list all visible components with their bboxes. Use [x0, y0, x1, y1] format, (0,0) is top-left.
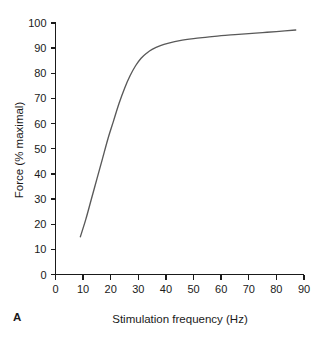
y-axis-tick-label: 90 — [34, 42, 46, 54]
y-axis-tick-label: 0 — [40, 269, 46, 281]
x-axis-ticks: 0102030405060708090 — [52, 275, 310, 295]
y-axis-tick-label: 80 — [34, 67, 46, 79]
y-axis-tick-label: 20 — [34, 218, 46, 230]
x-axis-tick-label: 60 — [215, 283, 227, 295]
data-curve-force-frequency — [80, 30, 295, 237]
y-axis-tick-label: 70 — [34, 92, 46, 104]
y-axis-tick-label: 50 — [34, 143, 46, 155]
force-frequency-chart: 0102030405060708090100 01020304050607080… — [0, 0, 327, 339]
x-axis-tick-label: 0 — [52, 283, 58, 295]
x-axis-tick-label: 70 — [243, 283, 255, 295]
x-axis-tick-label: 80 — [270, 283, 282, 295]
y-axis-ticks: 0102030405060708090100 — [28, 17, 55, 281]
figure-panel-a: 0102030405060708090100 01020304050607080… — [0, 0, 327, 339]
y-axis-tick-label: 100 — [28, 17, 46, 29]
y-axis-tick-label: 40 — [34, 168, 46, 180]
y-axis-tick-label: 10 — [34, 243, 46, 255]
panel-label: A — [13, 311, 22, 323]
x-axis-tick-label: 20 — [105, 283, 117, 295]
chart-axes — [56, 23, 305, 275]
x-axis-tick-label: 30 — [132, 283, 144, 295]
x-axis-tick-label: 40 — [160, 283, 172, 295]
x-axis-title: Stimulation frequency (Hz) — [112, 313, 248, 325]
x-axis-tick-label: 50 — [187, 283, 199, 295]
x-axis-tick-label: 10 — [77, 283, 89, 295]
y-axis-tick-label: 60 — [34, 118, 46, 130]
x-axis-tick-label: 90 — [298, 283, 310, 295]
y-axis-title: Force (% maximal) — [13, 102, 25, 199]
y-axis-tick-label: 30 — [34, 193, 46, 205]
chart-series-group — [80, 30, 295, 237]
